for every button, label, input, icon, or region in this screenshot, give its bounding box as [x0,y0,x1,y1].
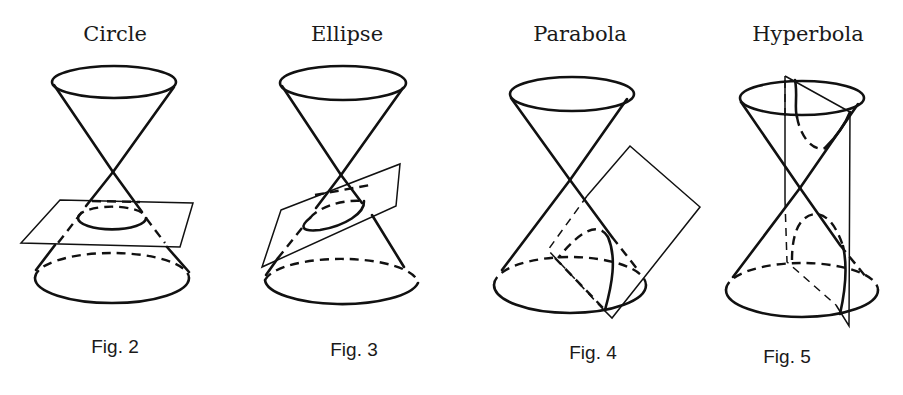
figure-caption-4: Fig. 4 [569,342,617,364]
figure-caption-2: Fig. 2 [91,336,139,358]
figure-caption-5: Fig. 5 [763,346,811,368]
figure-circle [21,66,193,303]
figure-caption-3: Fig. 3 [330,339,378,361]
figure-title-parabola: Parabola [533,22,627,46]
figure-ellipse [262,66,418,304]
figure-title-hyperbola: Hyperbola [752,22,863,46]
figure-title-ellipse: Ellipse [311,22,383,46]
figure-hyperbola [726,76,878,326]
figure-title-circle: Circle [83,22,147,46]
figure-parabola [494,77,700,318]
